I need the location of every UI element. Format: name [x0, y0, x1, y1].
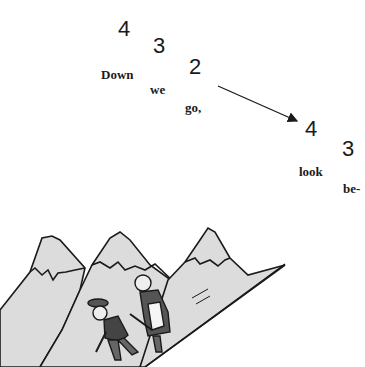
illustration — [0, 0, 365, 367]
arrow-icon — [218, 86, 297, 121]
